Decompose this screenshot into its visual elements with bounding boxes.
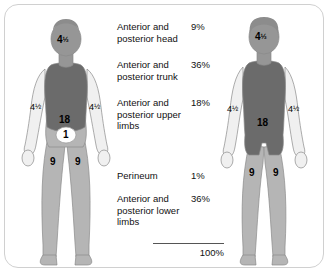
anterior-right-arm-label: 4½ bbox=[89, 103, 100, 112]
posterior-trunk-label: 18 bbox=[257, 118, 268, 128]
posterior-right-arm-label: 4½ bbox=[288, 105, 299, 114]
anterior-left-leg bbox=[42, 133, 66, 257]
legend-percent-head: 9% bbox=[191, 21, 225, 33]
legend-label-trunk: Anterior and posterior trunk bbox=[117, 59, 189, 82]
legend-label-perineum: Perineum bbox=[117, 170, 189, 182]
posterior-right-leg-label: 9 bbox=[273, 168, 279, 178]
legend-label-head: Anterior and posterior head bbox=[117, 21, 189, 44]
anterior-right-leg-label: 9 bbox=[75, 157, 81, 167]
legend-percent-perineum: 1% bbox=[191, 170, 225, 182]
posterior-left-leg-label: 9 bbox=[249, 168, 255, 178]
anterior-head-label: 4½ bbox=[57, 35, 69, 45]
anterior-body-figure: 4½ 4½ 4½ 18 1 9 9 bbox=[11, 5, 121, 268]
posterior-left-leg bbox=[242, 145, 264, 257]
posterior-right-leg bbox=[264, 145, 286, 257]
total-percent: 100% bbox=[153, 247, 224, 258]
total-divider bbox=[153, 243, 224, 244]
posterior-left-arm-label: 4½ bbox=[227, 105, 238, 114]
diagram-panel: 4½ 4½ 4½ 18 1 9 9 bbox=[4, 4, 324, 268]
posterior-body-figure: 4½ 4½ 4½ 18 9 9 bbox=[209, 5, 319, 268]
anterior-left-arm-label: 4½ bbox=[30, 103, 41, 112]
legend-label-lower-limbs: Anterior and posterior lower limbs bbox=[117, 193, 189, 228]
posterior-head-label: 4½ bbox=[255, 32, 267, 42]
legend-percent-lower-limbs: 36% bbox=[191, 193, 225, 205]
legend-label-upper-limbs: Anterior and posterior upper limbs bbox=[117, 97, 189, 132]
anterior-trunk-label: 18 bbox=[59, 115, 70, 125]
anterior-perineum-label: 1 bbox=[63, 130, 69, 140]
anterior-right-leg bbox=[66, 133, 90, 257]
anterior-left-leg-label: 9 bbox=[50, 157, 56, 167]
legend-percent-upper-limbs: 18% bbox=[191, 97, 225, 109]
legend-percent-trunk: 36% bbox=[191, 59, 225, 71]
posterior-trunk bbox=[243, 61, 286, 155]
